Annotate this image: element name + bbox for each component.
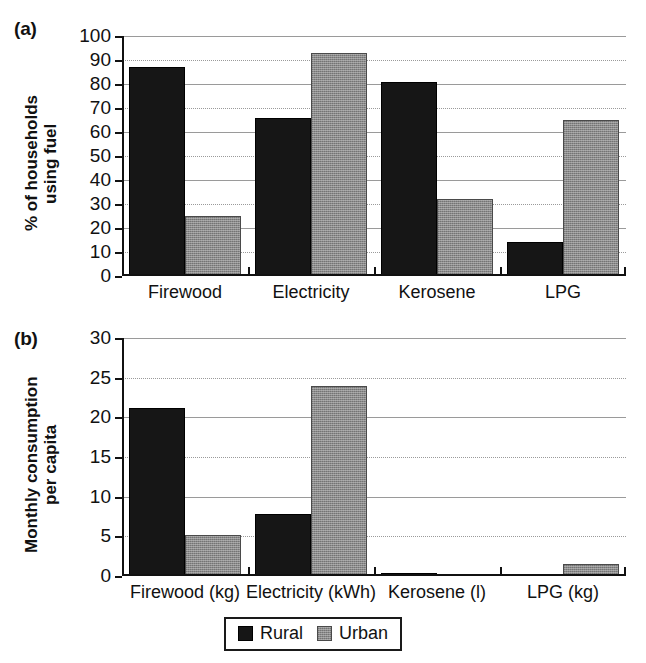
y-axis-tick [115, 108, 122, 110]
y-axis-tick [115, 228, 122, 230]
y-axis-tick [115, 252, 122, 254]
y-axis-tick-label: 20 [90, 406, 111, 428]
y-axis-tick-label: 10 [90, 241, 111, 263]
panel-b-tag: (b) [14, 328, 38, 350]
y-axis-tick [115, 204, 122, 206]
y-axis-tick [115, 180, 122, 182]
x-axis-label: LPG (kg) [527, 582, 599, 603]
figure-container: (a) % of households using fuel 010203040… [0, 0, 646, 663]
panel-a-x-axis-line [122, 274, 626, 276]
y-axis-tick [115, 417, 122, 419]
y-axis-tick-label: 90 [90, 49, 111, 71]
y-axis-tick [115, 60, 122, 62]
y-axis-tick [115, 156, 122, 158]
legend-item-rural: Rural [238, 623, 303, 644]
y-axis-tick [115, 497, 122, 499]
y-axis-tick-label: 0 [100, 265, 111, 287]
y-axis-tick [115, 576, 122, 578]
panel-a-axis-ticks: 0102030405060708090100FirewoodElectricit… [122, 36, 626, 276]
chart-legend: Rural Urban [224, 617, 402, 651]
legend-swatch-rural-icon [238, 626, 253, 641]
y-axis-tick [115, 276, 122, 278]
panel-b-x-axis-line [122, 574, 626, 576]
y-axis-tick [115, 84, 122, 86]
chart-panel-b: (b) Monthly consumption per capita 05101… [0, 320, 646, 663]
y-axis-tick-label: 50 [90, 145, 111, 167]
y-axis-tick [115, 457, 122, 459]
y-axis-tick [115, 36, 122, 38]
y-axis-tick [115, 378, 122, 380]
panel-a-y-axis-title: % of households using fuel [22, 56, 60, 271]
x-axis-label: Firewood (kg) [130, 582, 240, 603]
panel-a-tag: (a) [14, 18, 37, 40]
legend-swatch-urban-icon [317, 626, 332, 641]
y-axis-tick [115, 132, 122, 134]
y-axis-tick-label: 70 [90, 97, 111, 119]
x-axis-label: Electricity (kWh) [246, 582, 376, 603]
y-axis-tick-label: 40 [90, 169, 111, 191]
y-axis-tick-label: 25 [90, 367, 111, 389]
y-axis-tick-label: 30 [90, 193, 111, 215]
y-axis-tick-label: 80 [90, 73, 111, 95]
y-axis-tick-label: 20 [90, 217, 111, 239]
panel-a-plot-area: 0102030405060708090100FirewoodElectricit… [122, 36, 626, 276]
chart-panel-a: (a) % of households using fuel 010203040… [0, 0, 646, 320]
y-axis-tick-label: 10 [90, 486, 111, 508]
legend-label-urban: Urban [339, 623, 388, 644]
y-axis-tick-label: 100 [79, 25, 111, 47]
panel-b-plot-area: 051015202530Firewood (kg)Electricity (kW… [122, 338, 626, 576]
y-axis-tick [115, 338, 122, 340]
panel-a-y-axis-line [122, 36, 124, 276]
y-axis-tick-label: 30 [90, 327, 111, 349]
x-axis-label: Kerosene (l) [388, 582, 486, 603]
x-axis-label: Firewood [148, 282, 222, 303]
x-axis-label: Electricity [272, 282, 349, 303]
y-axis-tick-label: 0 [100, 565, 111, 587]
panel-b-y-axis-title: Monthly consumption per capita [22, 350, 60, 580]
panel-b-axis-ticks: 051015202530Firewood (kg)Electricity (kW… [122, 338, 626, 576]
y-axis-tick-label: 5 [100, 525, 111, 547]
y-axis-tick-label: 15 [90, 446, 111, 468]
y-axis-tick-label: 60 [90, 121, 111, 143]
x-axis-label: LPG [545, 282, 581, 303]
x-axis-label: Kerosene [398, 282, 475, 303]
legend-label-rural: Rural [260, 623, 303, 644]
y-axis-tick [115, 536, 122, 538]
panel-b-y-axis-line [122, 338, 124, 576]
legend-item-urban: Urban [317, 623, 388, 644]
